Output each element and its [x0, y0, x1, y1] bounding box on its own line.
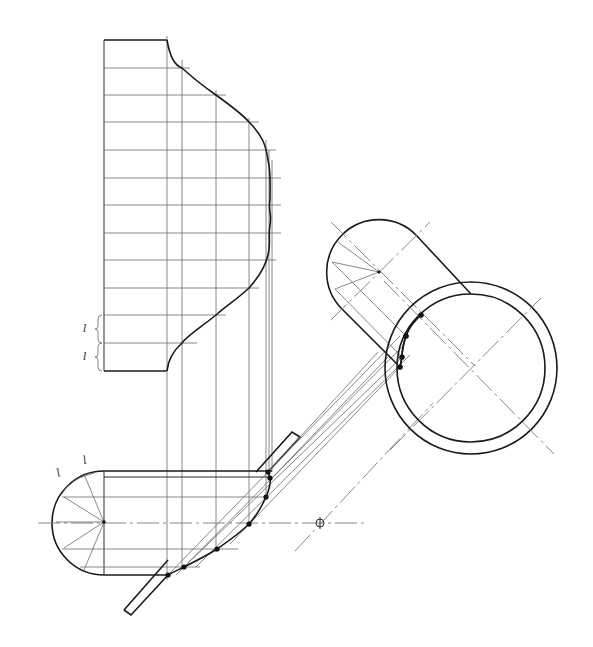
- diagonal-centerline: [295, 403, 433, 551]
- pipe-stub: [124, 575, 168, 615]
- dimension-braces: l l: [83, 315, 102, 371]
- label-l-arc-2: l: [81, 453, 88, 467]
- profile-horizontal-grid: [104, 68, 281, 343]
- branch-cap-outline: [327, 220, 416, 364]
- profile-vertical-grid: [167, 36, 272, 580]
- arc-segment-marks: [62, 473, 94, 494]
- main-pipe-centerline-b: [390, 298, 541, 450]
- label-l-2: l: [83, 350, 87, 363]
- profile-view: l l: [83, 36, 281, 580]
- main-pipe-section: [384, 281, 557, 454]
- label-l-arc-1: l: [55, 466, 63, 480]
- technical-drawing: l l l l: [0, 0, 593, 647]
- profile-curve: [167, 40, 271, 371]
- pipe-upper-tab: [256, 432, 300, 472]
- label-l-1: l: [83, 322, 87, 335]
